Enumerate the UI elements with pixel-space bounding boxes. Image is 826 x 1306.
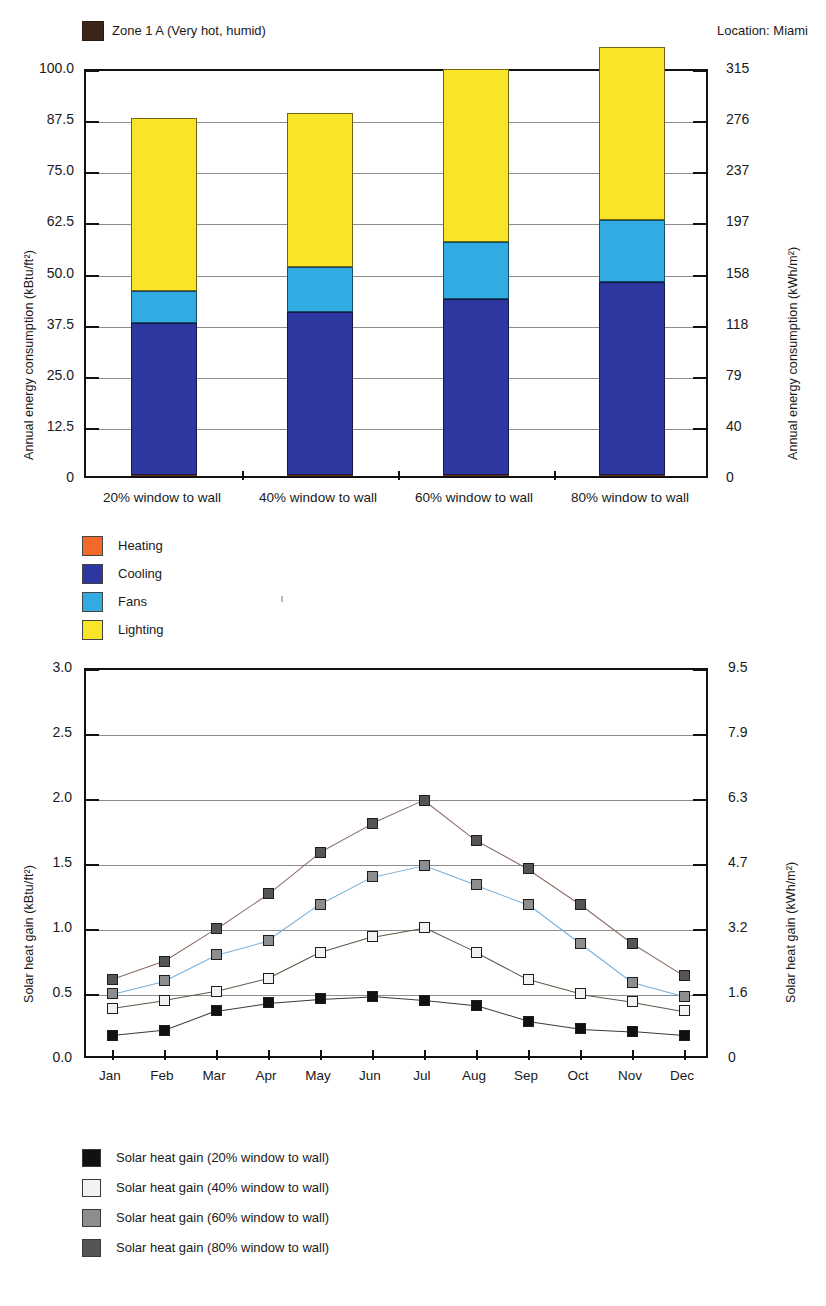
data-point xyxy=(263,997,274,1008)
bar-stack xyxy=(599,67,665,476)
chart2-month-label: Mar xyxy=(188,1068,240,1083)
solar-heat-gain-chart: Solar heat gain (kBtu/ft²) Solar heat ga… xyxy=(0,640,826,1306)
month-tick xyxy=(424,1050,426,1060)
chart1-left-tick-label: 25.0 xyxy=(0,367,74,383)
data-point xyxy=(679,991,690,1002)
chart1-legend-label: Fans xyxy=(118,594,147,609)
series-line-segment xyxy=(580,1029,632,1033)
axis-tick xyxy=(693,172,706,174)
month-tick xyxy=(268,1050,270,1060)
chart2-right-axis-title: Solar heat gain (kWh/m²) xyxy=(784,862,798,1003)
data-point xyxy=(211,1005,222,1016)
axis-tick xyxy=(693,734,706,736)
data-point xyxy=(263,935,274,946)
zone-swatch xyxy=(82,21,104,41)
legend-swatch-series-2 xyxy=(82,1179,101,1197)
category-tick xyxy=(554,471,556,480)
series-line-segment xyxy=(268,952,321,979)
bar-segment-fans xyxy=(131,291,197,324)
month-tick xyxy=(320,1050,322,1060)
axis-tick xyxy=(86,669,99,671)
chart2-left-tick-label: 2.0 xyxy=(0,789,72,805)
chart2-left-tick-label: 2.5 xyxy=(0,724,72,740)
series-line-segment xyxy=(476,1005,528,1022)
series-line-segment xyxy=(320,996,372,1000)
bar-segment-lighting xyxy=(443,69,509,243)
axis-tick xyxy=(693,799,706,801)
gridline xyxy=(86,800,706,801)
bar-segment-fans xyxy=(443,242,509,298)
data-point xyxy=(367,871,378,882)
legend-swatch-lighting xyxy=(82,620,103,640)
series-line-segment xyxy=(424,1000,476,1006)
series-line-segment xyxy=(216,978,268,992)
series-line-segment xyxy=(164,955,217,982)
data-point xyxy=(211,986,222,997)
chart1-right-tick-label: 79 xyxy=(726,367,742,383)
chart2-right-tick-label: 7.9 xyxy=(728,724,747,740)
series-line-segment xyxy=(112,1000,164,1009)
axis-tick xyxy=(86,734,99,736)
data-point xyxy=(627,996,638,1007)
axis-tick xyxy=(693,864,706,866)
chart1-category-label: 80% window to wall xyxy=(552,490,708,505)
chart1-right-tick-label: 237 xyxy=(726,162,749,178)
chart1-category-label: 60% window to wall xyxy=(396,490,552,505)
data-point xyxy=(315,899,326,910)
chart2-month-label: Sep xyxy=(500,1068,552,1083)
chart2-month-label: Jan xyxy=(84,1068,136,1083)
axis-tick xyxy=(693,275,706,277)
category-tick xyxy=(398,471,400,480)
axis-tick xyxy=(86,326,99,328)
data-point xyxy=(107,1003,118,1014)
chart2-left-tick-label: 0.5 xyxy=(0,984,72,1000)
data-point xyxy=(523,1016,534,1027)
chart1-category-label: 40% window to wall xyxy=(240,490,396,505)
month-tick xyxy=(164,1050,166,1060)
series-line-segment xyxy=(528,904,581,944)
bar-segment-lighting xyxy=(287,113,353,267)
bar-stack xyxy=(443,67,509,476)
chart2-left-tick-label: 3.0 xyxy=(0,659,72,675)
series-line-segment xyxy=(268,904,321,941)
series-line-segment xyxy=(112,1030,164,1036)
chart2-month-label: May xyxy=(292,1068,344,1083)
gridline xyxy=(86,735,706,736)
bar-segment-cooling xyxy=(131,323,197,474)
chart2-left-tick-label: 0.0 xyxy=(0,1049,72,1065)
chart2-legend-label: Solar heat gain (40% window to wall) xyxy=(116,1180,329,1195)
bar-segment-lighting xyxy=(131,118,197,291)
series-line-segment xyxy=(372,800,424,824)
chart2-month-label: Nov xyxy=(604,1068,656,1083)
chart1-left-tick-label: 50.0 xyxy=(0,265,74,281)
chart2-right-tick-label: 0 xyxy=(728,1049,736,1065)
data-point xyxy=(211,923,222,934)
month-tick xyxy=(476,1050,478,1060)
series-line-segment xyxy=(320,823,373,853)
chart2-right-tick-label: 6.3 xyxy=(728,789,747,805)
data-point xyxy=(159,956,170,967)
axis-tick xyxy=(693,428,706,430)
location-label: Location: Miami xyxy=(717,23,808,38)
data-point xyxy=(367,931,378,942)
data-point xyxy=(471,1000,482,1011)
series-line-segment xyxy=(216,894,269,930)
data-point xyxy=(315,847,326,858)
series-line-segment xyxy=(424,865,476,886)
chart1-legend-label: Lighting xyxy=(118,622,164,637)
chart2-plot-area xyxy=(84,668,708,1058)
series-line-segment xyxy=(112,981,164,995)
data-point xyxy=(419,795,430,806)
data-point xyxy=(263,973,274,984)
chart1-right-tick-label: 315 xyxy=(726,60,749,76)
chart1-left-tick-label: 87.5 xyxy=(0,111,74,127)
chart1-right-tick-label: 276 xyxy=(726,111,749,127)
data-point xyxy=(419,995,430,1006)
chart1-legend-label: Cooling xyxy=(118,566,162,581)
series-line-segment xyxy=(216,940,268,955)
series-line-segment xyxy=(632,1031,684,1036)
data-point xyxy=(575,988,586,999)
bar-segment-fans xyxy=(599,220,665,282)
data-point xyxy=(367,818,378,829)
data-point xyxy=(315,947,326,958)
